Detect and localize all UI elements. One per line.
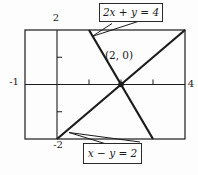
x-min-label: -1 xyxy=(6,77,22,87)
x-max-label: 4 xyxy=(186,79,196,89)
y-min-label: -2 xyxy=(50,140,66,150)
graph-figure: 2 -1 4 -2 (2, 0) 2x + y = 4 x − y = 2 xyxy=(0,0,198,175)
equation-label-top: 2x + y = 4 xyxy=(99,3,163,22)
y-max-label: 2 xyxy=(50,13,62,23)
intersection-point-label: (2, 0) xyxy=(100,50,138,61)
callout-pointer-top xyxy=(92,22,138,37)
intersection-dot xyxy=(118,82,124,88)
equation-label-bottom: x − y = 2 xyxy=(83,143,142,164)
